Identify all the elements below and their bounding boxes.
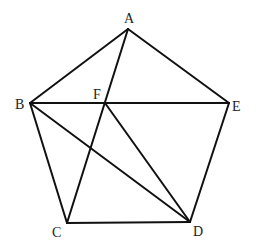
edge-C-D — [67, 222, 190, 223]
diagram-canvas: A B C D E F — [0, 0, 256, 248]
edge-B-D — [30, 103, 190, 222]
edge-B-C — [30, 103, 67, 223]
edge-A-E — [128, 29, 229, 103]
pentagon-diagram: A B C D E F — [0, 0, 256, 248]
edges-group — [30, 29, 229, 223]
edge-A-C — [67, 29, 128, 223]
label-C: C — [52, 225, 61, 240]
label-D: D — [193, 224, 203, 239]
label-F: F — [93, 87, 101, 102]
label-B: B — [15, 97, 24, 112]
edge-A-B — [30, 29, 128, 103]
labels-group: A B C D E F — [15, 11, 241, 240]
label-A: A — [124, 11, 135, 26]
edge-F-D — [105, 103, 190, 222]
edge-D-E — [190, 103, 229, 222]
label-E: E — [232, 99, 241, 114]
